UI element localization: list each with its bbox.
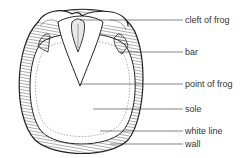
label-white-line: white line xyxy=(185,126,223,136)
label-wall: wall xyxy=(185,139,201,149)
label-sole: sole xyxy=(185,104,202,114)
label-point-of-frog: point of frog xyxy=(185,79,233,89)
label-cleft-of-frog: cleft of frog xyxy=(185,15,230,25)
label-bar: bar xyxy=(185,47,198,57)
